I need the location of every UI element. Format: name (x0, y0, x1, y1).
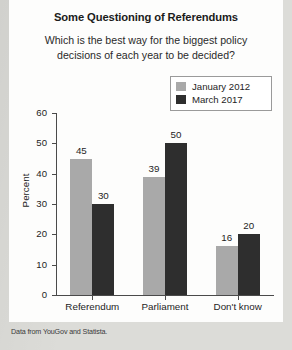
y-tick-label: 10 (25, 259, 47, 270)
bar-value-label: 20 (234, 220, 264, 231)
y-tick-label: 30 (25, 198, 47, 209)
source-note: Data from YouGov and Statista. (11, 327, 107, 336)
y-tick-mark (52, 174, 56, 175)
y-tick-label: 40 (25, 168, 47, 179)
y-tick-mark (52, 113, 56, 114)
chart-figure-card: Some Questioning of Referendums Which is… (9, 0, 283, 322)
bar (70, 159, 92, 296)
y-tick-mark (52, 234, 56, 235)
y-tick-label: 50 (25, 137, 47, 148)
y-tick-mark (52, 143, 56, 144)
y-tick-label: 0 (25, 289, 47, 300)
x-tick-mark (238, 296, 239, 300)
x-tick-mark (165, 296, 166, 300)
bar (165, 143, 187, 295)
y-tick-mark (52, 295, 56, 296)
bar (216, 246, 238, 295)
bar (143, 177, 165, 295)
bar-value-label: 30 (88, 190, 118, 201)
y-tick-mark (52, 265, 56, 266)
bar (238, 234, 260, 295)
y-tick-label: 20 (25, 228, 47, 239)
y-tick-mark (52, 204, 56, 205)
bar (92, 204, 114, 295)
bar-value-label: 45 (66, 145, 96, 156)
y-axis-line (56, 113, 57, 296)
y-tick-label: 60 (25, 107, 47, 118)
plot-area: Percent 0102030405060 453039501620 Refer… (9, 0, 283, 322)
bar-value-label: 50 (161, 129, 191, 140)
x-category-label: Don't know (192, 301, 284, 312)
x-tick-mark (92, 296, 93, 300)
